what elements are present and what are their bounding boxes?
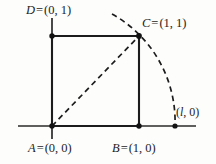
label-point-a: A=(0, 0) bbox=[28, 142, 72, 155]
label-a-coords: (0, 0) bbox=[45, 141, 72, 155]
label-point-d: D=(0, 1) bbox=[26, 4, 71, 17]
label-b-equals: = bbox=[120, 141, 129, 155]
label-a-equals: = bbox=[36, 141, 45, 155]
label-point-c: C=(1, 1) bbox=[142, 17, 186, 30]
point-b bbox=[136, 123, 141, 128]
label-c-coords: (1, 1) bbox=[159, 16, 186, 30]
point-l bbox=[172, 123, 177, 128]
label-d-name: D bbox=[26, 3, 35, 17]
geometry-figure: D=(0, 1) C=(1, 1) A=(0, 0) B=(1, 0) (l, … bbox=[0, 0, 216, 164]
label-b-coords: (1, 0) bbox=[129, 141, 156, 155]
point-a bbox=[49, 123, 54, 128]
diagonal-ac-dashed bbox=[52, 36, 139, 126]
label-a-name: A bbox=[28, 141, 36, 155]
label-d-coords: (0, 1) bbox=[44, 3, 71, 17]
label-l-close: , 0) bbox=[183, 105, 199, 119]
point-d bbox=[49, 33, 54, 38]
label-d-equals: = bbox=[35, 3, 44, 17]
point-c bbox=[136, 33, 142, 39]
label-point-b: B=(1, 0) bbox=[112, 142, 156, 155]
arc-radius-ac-dashed bbox=[112, 14, 175, 126]
label-point-l: (l, 0) bbox=[176, 106, 199, 118]
label-b-name: B bbox=[112, 141, 120, 155]
